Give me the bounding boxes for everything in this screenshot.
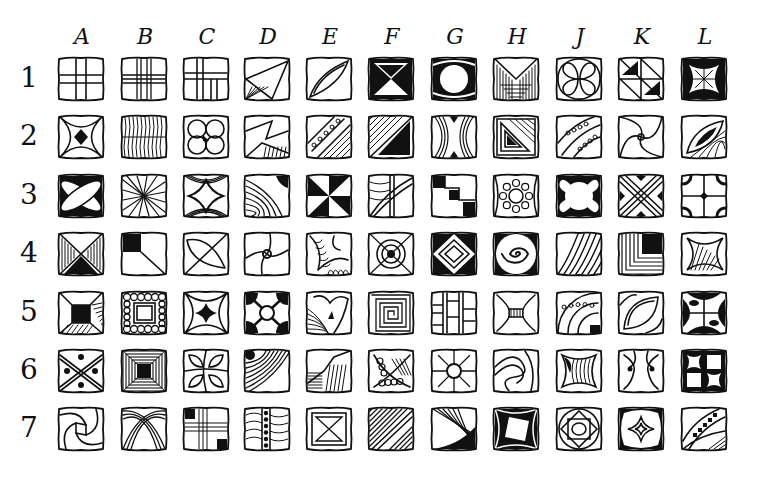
tangle-pattern-icon	[56, 230, 106, 278]
tangle-pattern-icon	[242, 230, 292, 278]
row-label: 1	[14, 61, 44, 94]
tangle-pattern-icon	[554, 289, 604, 337]
tile-J2-beaded-arcs	[554, 113, 604, 161]
tile-L1-star-burst	[679, 55, 729, 103]
column-label: J	[554, 24, 606, 49]
tile-J3-four-petal	[554, 172, 604, 220]
tangle-pattern-icon	[491, 405, 541, 453]
tangle-pattern-icon	[554, 172, 604, 220]
row-label: 3	[14, 178, 44, 211]
tangle-pattern-icon	[366, 405, 416, 453]
tangle-pattern-icon	[304, 55, 354, 103]
tangle-pattern-icon	[242, 289, 292, 337]
tile-L3-quad-arcs-dot	[679, 172, 729, 220]
tangle-pattern-icon	[181, 172, 231, 220]
tile-K3-x-lattice	[616, 172, 666, 220]
tile-L2-leaf-eye	[679, 113, 729, 161]
tile-F2-diagonal-black-triangle	[366, 113, 416, 161]
tangle-pattern-icon	[554, 405, 604, 453]
tile-B5-bead-border	[119, 289, 169, 337]
tangle-pattern-icon	[679, 405, 729, 453]
tangle-pattern-icon	[56, 405, 106, 453]
tile-B6-deep-frame	[119, 347, 169, 395]
tile-K1-triangle-hatch	[616, 55, 666, 103]
tangle-pattern-icon	[119, 230, 169, 278]
tile-D5-quarter-circles	[242, 289, 292, 337]
column-label: C	[181, 24, 233, 49]
tangle-pattern-icon	[119, 55, 169, 103]
tile-L4-concave-hatch	[679, 230, 729, 278]
tangle-pattern-icon	[181, 405, 231, 453]
tile-E3-pinwheel	[304, 172, 354, 220]
column-label: K	[616, 24, 668, 49]
tile-C7-corner-steps	[181, 405, 231, 453]
tangle-pattern-icon	[366, 230, 416, 278]
tangle-pattern-icon	[554, 230, 604, 278]
tile-K6-scroll-motif	[616, 347, 666, 395]
tangle-pattern-icon	[429, 230, 479, 278]
tile-D1-diamond-fan	[242, 55, 292, 103]
row-label: 5	[14, 295, 44, 328]
tile-D2-folded-ribbon	[242, 113, 292, 161]
tangle-pattern-icon	[616, 55, 666, 103]
tile-C4-diagonal-lens	[181, 230, 231, 278]
tile-F5-square-spiral	[366, 289, 416, 337]
tangle-pattern-icon	[429, 172, 479, 220]
tile-F6-dot-fill-diagonal	[366, 347, 416, 395]
row-label: 6	[14, 353, 44, 386]
tangle-pattern-icon	[491, 55, 541, 103]
tile-A4-bowtie-hatch	[56, 230, 106, 278]
tile-E2-beaded-diagonal	[304, 113, 354, 161]
tile-H5-waisted-pillar	[491, 289, 541, 337]
tangle-pattern-icon	[366, 55, 416, 103]
tangle-pattern-icon	[491, 347, 541, 395]
tile-L7-checker-arc	[679, 405, 729, 453]
tile-G6-spoke-ring	[429, 347, 479, 395]
column-label: F	[366, 24, 418, 49]
tangle-pattern-icon	[429, 289, 479, 337]
tangle-pattern-icon	[242, 347, 292, 395]
tile-E7-nested-x-frame	[304, 405, 354, 453]
tangle-pattern-icon	[429, 113, 479, 161]
tangle-pattern-icon	[429, 55, 479, 103]
tangle-pattern-icon	[119, 113, 169, 161]
tile-G7-arc-sweep	[429, 405, 479, 453]
tangle-pattern-icon	[616, 289, 666, 337]
tangle-pattern-icon	[366, 172, 416, 220]
tile-C2-four-balls	[181, 113, 231, 161]
tangle-pattern-icon	[242, 405, 292, 453]
tile-B2-wavy-ribbed	[119, 113, 169, 161]
tangle-pattern-icon	[366, 289, 416, 337]
column-label: E	[304, 24, 356, 49]
tangle-pattern-icon	[616, 347, 666, 395]
tile-D7-beaded-column	[242, 405, 292, 453]
tangle-pattern-icon	[56, 289, 106, 337]
tile-A3-crossed-ovals	[56, 172, 106, 220]
tile-A1-grid-cross	[56, 55, 106, 103]
tangle-pattern-icon	[119, 289, 169, 337]
tile-D6-stripe-diagonal	[242, 347, 292, 395]
tile-G2-crescent-pillars	[429, 113, 479, 161]
tile-G1-circle-frame	[429, 55, 479, 103]
tile-C5-concave-star	[181, 289, 231, 337]
tangle-pattern-icon	[119, 347, 169, 395]
tile-L6-checker-concave	[679, 347, 729, 395]
tile-K4-corner-frame	[616, 230, 666, 278]
tile-J6-concave-lines	[554, 347, 604, 395]
tangle-pattern-icon	[616, 113, 666, 161]
tangle-pattern-icon	[242, 55, 292, 103]
tile-J5-dotted-arc-bands	[554, 289, 604, 337]
tangle-pattern-icon	[56, 172, 106, 220]
tile-B3-radiating-curves	[119, 172, 169, 220]
tile-D3-concentric-arcs	[242, 172, 292, 220]
tile-C3-concave-diamond	[181, 172, 231, 220]
tile-B1-lined-cross	[119, 55, 169, 103]
tangle-pattern-icon	[554, 347, 604, 395]
tangle-pattern-icon	[56, 347, 106, 395]
tile-B4-corner-square	[119, 230, 169, 278]
tangle-pattern-icon	[304, 347, 354, 395]
tangle-pattern-icon	[429, 347, 479, 395]
tile-K5-pod-lens	[616, 289, 666, 337]
tile-J4-diagonal-stripes	[554, 230, 604, 278]
tile-F3-crossed-bands	[366, 172, 416, 220]
